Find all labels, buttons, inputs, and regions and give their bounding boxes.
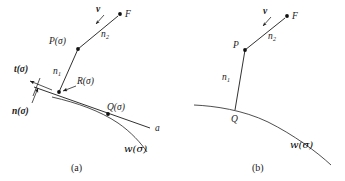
ray-n2-segment-b [245,18,285,50]
label-n1-a: n 1 [53,66,61,77]
label-Q-sigma-a: Q(σ) [107,102,125,113]
caption-panel-b: (b) [252,162,264,174]
ray-n1-segment-b [235,50,245,110]
label-v-b: v [263,6,268,16]
label-n-sigma-a: n(σ) [12,106,29,117]
label-Q-b: Q [231,114,238,124]
label-n2-b: n 2 [268,31,276,42]
point-R-sigma-a [57,90,61,94]
tangent-vector-arrow-a [30,81,52,90]
label-curve-w-b: w(σ) [290,139,313,150]
label-curve-w-a: w(σ) [124,143,147,154]
figure-container: F v n 2 P(σ) n 1 t(σ) n(σ) R(σ) Q(σ) a w… [0,0,345,181]
label-tangent-line-a: a [155,123,160,133]
label-n1-b: n 1 [222,72,230,83]
label-F-b: F [291,11,298,21]
ray-n1-segment-a [59,49,78,92]
label-P-sigma-a: P(σ) [48,36,66,47]
velocity-vector-arrow-a [96,15,104,24]
panel-a: F v n 2 P(σ) n 1 t(σ) n(σ) R(σ) Q(σ) a w… [12,4,160,174]
caption-panel-a: (a) [71,162,82,174]
label-n2-sub-a: 2 [106,34,109,40]
ray-n2-segment-a [78,16,118,49]
curve-w-sigma-b [194,105,331,165]
panel-b: F v n 2 P n 1 Q w(σ) (b) [194,6,331,174]
tangent-line-a [34,87,150,128]
point-F-a [118,12,122,16]
label-R-sigma-a: R(σ) [76,76,94,87]
point-P-b [243,48,247,52]
label-n1-sub-a: 1 [58,71,61,77]
label-t-sigma-a: t(σ) [14,64,28,75]
leader-r-sigma-a [63,86,76,91]
velocity-vector-arrow-b [263,17,271,26]
label-P-b: P [232,40,239,50]
label-F-a: F [124,9,131,19]
point-P-sigma-a [76,47,80,51]
point-Q-sigma-a [106,112,110,116]
label-v-a: v [96,4,101,14]
label-n2-a: n 2 [101,29,109,40]
figure-svg: F v n 2 P(σ) n 1 t(σ) n(σ) R(σ) Q(σ) a w… [0,0,345,181]
label-n1-sub-b: 1 [227,77,230,83]
label-n2-sub-b: 2 [273,36,276,42]
point-F-b [285,14,289,18]
